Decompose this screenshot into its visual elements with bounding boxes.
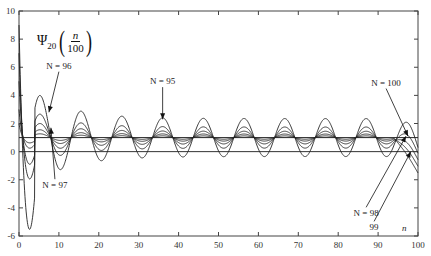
y-tick-label: 4 [11,90,16,100]
y-tick-label: 0 [11,147,16,157]
x-tick-label: 80 [334,240,344,250]
x-tick-label: 20 [94,240,104,250]
curve-n95 [19,25,418,229]
annotation-label: N = 100 [371,78,401,88]
x-tick-label: 10 [54,240,64,250]
x-tick-label: 30 [134,240,144,250]
x-tick-label: 40 [174,240,184,250]
annotation-label: 99 [370,222,380,232]
annotation-arrow [386,89,408,137]
x-axis-label: n [402,223,407,233]
annotation-label: N = 98 [354,208,380,218]
y-tick-label: -6 [8,231,16,241]
x-tick-label: 50 [214,240,224,250]
y-tick-label: 10 [6,6,16,16]
annotation-label: N = 96 [46,61,72,71]
x-tick-label: 90 [374,240,384,250]
annotation-arrow [374,152,411,222]
arrowhead-icon [48,106,53,112]
annotation-label: N = 97 [42,180,68,190]
y-tick-label: 6 [11,62,16,72]
curve-n96 [19,53,418,179]
x-tick-label: 0 [17,240,22,250]
x-tick-label: 100 [411,240,425,250]
y-tick-label: -2 [8,175,16,185]
annotations: N = 96N = 95N = 97N = 100N = 9899 [42,61,410,233]
annotation-arrow [49,72,59,113]
curves [19,25,418,229]
x-tick-label: 60 [254,240,264,250]
y-tick-label: 2 [11,119,16,129]
annotation-arrow [51,128,55,179]
y-tick-label: 8 [11,34,16,44]
x-tick-label: 70 [294,240,304,250]
y-tick-label: -4 [8,203,16,213]
chart-plot-area: 01020304050607080901001086420-2-4-6n N =… [0,0,431,256]
annotation-label: N = 95 [150,76,176,86]
